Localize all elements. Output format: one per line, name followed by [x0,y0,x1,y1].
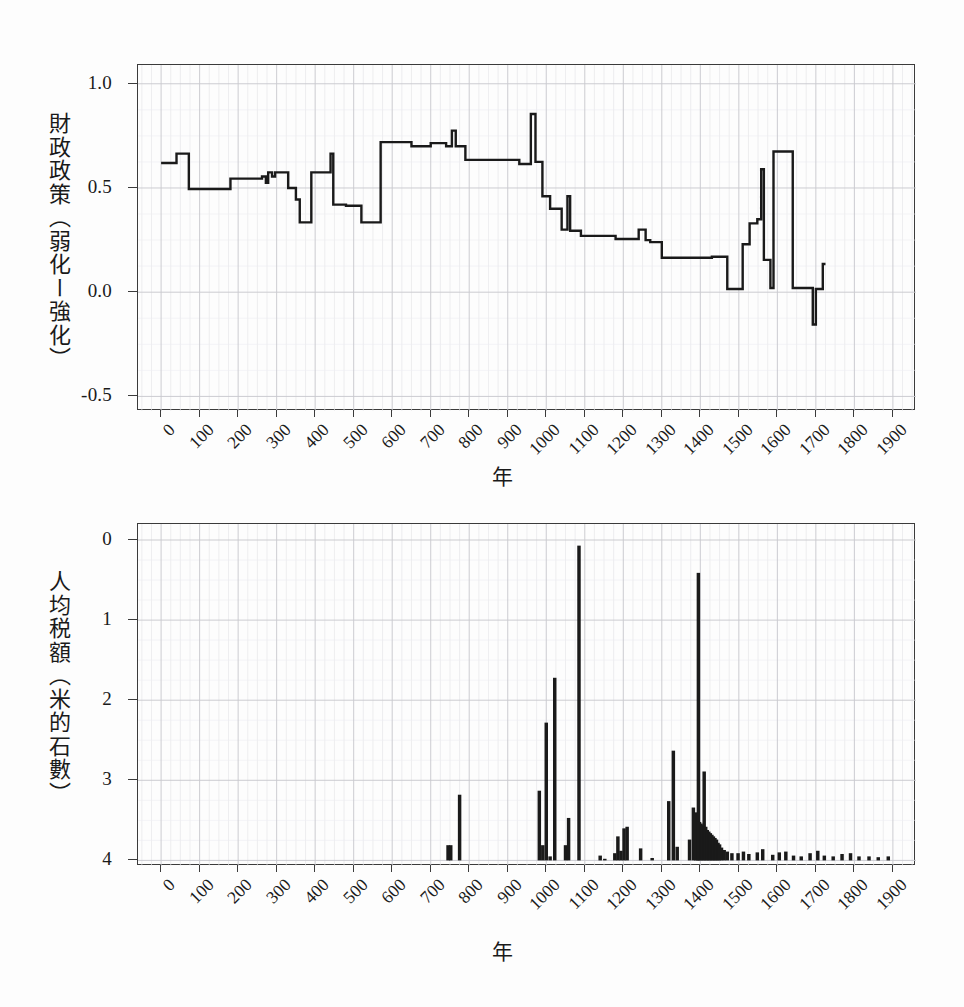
x-tick-mark [468,865,469,872]
figure-page: 財政政策（弱化ー強化） 1.00.50.0-0.5 01002003004005… [0,0,964,1007]
x-axis-title-tax: 年 [492,935,513,965]
x-tick-mark [160,865,161,872]
y-tick-label: 3 [0,769,128,788]
x-tick-mark [545,865,546,872]
y-tick-mark [128,619,137,620]
y-tick-mark [128,699,137,700]
x-tick-mark [430,865,431,872]
x-tick-mark [353,865,354,872]
y-tick-mark [128,539,137,540]
x-tick-mark [584,865,585,872]
x-tick-mark [276,865,277,872]
y-tick-label: 1 [0,609,128,628]
x-tick-mark [815,865,816,872]
y-tick-mark [128,859,137,860]
x-tick-mark [199,865,200,872]
x-tick-mark [853,865,854,872]
x-tick-mark [776,865,777,872]
x-tick-mark [699,865,700,872]
x-tick-mark [391,865,392,872]
bar-series-tax [138,524,916,866]
y-tick-mark [128,779,137,780]
x-tick-mark [622,865,623,872]
y-tick-label: 4 [0,849,128,868]
x-tick-mark [507,865,508,872]
x-tick-mark [892,865,893,872]
x-tick-mark [237,865,238,872]
y-tick-label: 2 [0,689,128,708]
plot-frame-tax [137,523,915,865]
x-tick-mark [738,865,739,872]
panel-tax-per-capita: 人均税額（米的石數） 43210 01002003004005006007008… [0,0,964,1007]
y-tick-label: 0 [0,529,128,548]
x-tick-mark [314,865,315,872]
x-tick-mark [661,865,662,872]
